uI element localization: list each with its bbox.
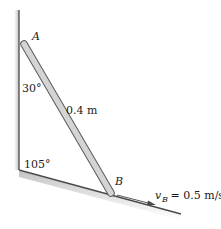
- ladder-diagram: A 30° 0.4 m 105° B v B = 0.5 m/s: [0, 0, 221, 229]
- wall: [14, 10, 19, 170]
- velocity-symbol: v: [155, 189, 162, 202]
- label-point-a: A: [31, 30, 40, 43]
- label-angle-30: 30°: [22, 82, 42, 95]
- wall-shading: [14, 10, 19, 170]
- label-point-b: B: [114, 175, 123, 188]
- velocity-value: = 0.5 m/s: [167, 189, 221, 202]
- label-rod-length: 0.4 m: [66, 104, 98, 117]
- label-angle-105: 105°: [24, 158, 51, 171]
- velocity-label: v B = 0.5 m/s: [155, 189, 221, 204]
